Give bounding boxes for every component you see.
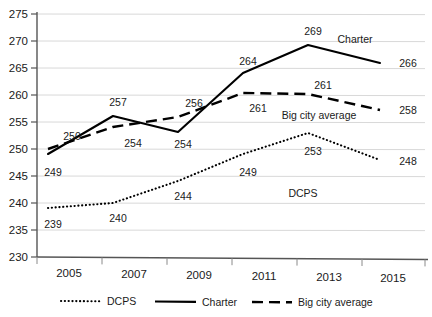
inline-label-dcps: DCPS [288, 187, 317, 199]
y-tick-265: 265 [9, 62, 28, 74]
y-tick-270: 270 [9, 35, 28, 47]
bigcity-label-2005: 250 [63, 130, 81, 142]
bigcity-label-2007: 254 [124, 137, 142, 149]
charter-label-2009: 254 [174, 138, 192, 150]
data-labels-bigcity: 250 254 256 261 261 258 [63, 79, 417, 149]
y-tick-245: 245 [9, 170, 28, 182]
y-tick-230: 230 [9, 251, 28, 263]
gridline-275 [37, 14, 425, 15]
gridlines [37, 14, 425, 231]
bigcity-label-2015: 258 [399, 104, 417, 116]
inline-label-bigcity: Big city average [282, 109, 357, 121]
gridline-250 [37, 149, 425, 150]
gridline-260 [37, 95, 425, 96]
legend-item-bigcity[interactable]: Big city average [252, 296, 373, 308]
gridline-245 [37, 176, 425, 177]
bigcity-label-2009: 256 [185, 97, 203, 109]
dcps-label-2011: 249 [239, 166, 257, 178]
legend-item-dcps[interactable]: DCPS [61, 295, 136, 307]
bigcity-label-2013: 261 [314, 79, 332, 91]
data-labels-charter: 249 257 254 264 269 266 [44, 25, 417, 178]
y-tick-240: 240 [9, 197, 28, 209]
y-tick-260: 260 [9, 89, 28, 101]
y-tick-235: 235 [9, 224, 28, 236]
data-labels-dcps: 239 240 244 249 253 248 [44, 145, 417, 230]
charter-label-2013: 269 [304, 25, 322, 37]
series-line-dcps [48, 133, 380, 208]
x-tick-2013: 2013 [316, 271, 342, 283]
charter-label-2005: 249 [44, 166, 62, 178]
x-tick-2015: 2015 [380, 272, 406, 284]
dcps-label-2005: 239 [44, 218, 62, 230]
y-tick-250: 250 [9, 143, 28, 155]
gridline-240 [37, 203, 425, 204]
charter-label-2015: 266 [399, 57, 417, 69]
x-tick-2011: 2011 [252, 270, 277, 282]
x-tick-2009: 2009 [186, 269, 212, 281]
chart-svg: 275 270 265 260 255 250 245 240 235 230 … [0, 0, 432, 317]
dcps-label-2007: 240 [109, 212, 127, 224]
inline-label-charter: Charter [337, 33, 373, 45]
legend-label-bigcity: Big city average [298, 296, 373, 308]
y-tick-marks [31, 14, 37, 257]
charter-label-2011: 264 [239, 55, 257, 67]
legend-label-charter: Charter [202, 296, 238, 308]
y-tick-275: 275 [9, 8, 28, 20]
dcps-label-2015: 248 [399, 155, 417, 167]
bigcity-label-2011: 261 [249, 102, 267, 114]
x-tick-2005: 2005 [56, 267, 82, 279]
gridline-255 [37, 122, 425, 123]
legend-item-charter[interactable]: Charter [155, 296, 238, 308]
dcps-label-2013: 253 [304, 145, 322, 157]
gridline-265 [37, 68, 425, 69]
legend-label-dcps: DCPS [107, 295, 136, 307]
legend: DCPS Charter Big city average [61, 295, 373, 308]
dcps-label-2009: 244 [174, 190, 192, 202]
x-tick-2007: 2007 [121, 268, 147, 280]
gridline-235 [37, 230, 425, 231]
charter-label-2007: 257 [109, 96, 127, 108]
line-chart: 275 270 265 260 255 250 245 240 235 230 … [0, 0, 432, 317]
y-tick-255: 255 [9, 116, 28, 128]
